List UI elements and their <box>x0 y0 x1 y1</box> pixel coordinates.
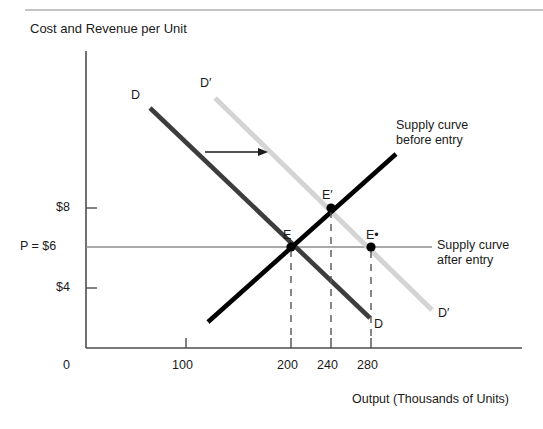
x-tick-label-100: 100 <box>172 358 193 372</box>
annotation-supply-before-entry: Supply curve before entry <box>396 118 468 148</box>
economics-supply-demand-figure: Cost and Revenue per Unit Output (Thousa… <box>0 0 543 429</box>
x-axis-title: Output (Thousands of Units) <box>352 392 509 406</box>
chart-canvas <box>0 0 543 429</box>
x-tick-label-200: 200 <box>277 358 298 372</box>
point-label-e: E <box>283 228 291 242</box>
point-label-e-prime: E′ <box>322 188 333 202</box>
annotation-supply-after-entry: Supply curve after entry <box>437 238 509 268</box>
point-label-e-star: E• <box>366 228 379 242</box>
x-tick-label-240: 240 <box>317 358 338 372</box>
curve-label-d-bottom: D <box>374 317 383 331</box>
y-tick-label-4: $4 <box>56 280 70 294</box>
curve-label-d-prime-bottom: D′ <box>438 306 449 320</box>
y-tick-label-p6: P = $6 <box>20 239 56 253</box>
point-e-prime <box>326 203 335 212</box>
y-tick-label-8: $8 <box>56 200 70 214</box>
x-tick-label-280: 280 <box>357 358 378 372</box>
point-e <box>286 242 295 251</box>
point-e-star <box>366 242 375 251</box>
x-tick-label-0: 0 <box>63 358 70 372</box>
curve-label-d-prime-top: D′ <box>200 76 211 90</box>
y-axis-title: Cost and Revenue per Unit <box>30 22 187 36</box>
curve-label-d-top: D <box>131 88 140 102</box>
